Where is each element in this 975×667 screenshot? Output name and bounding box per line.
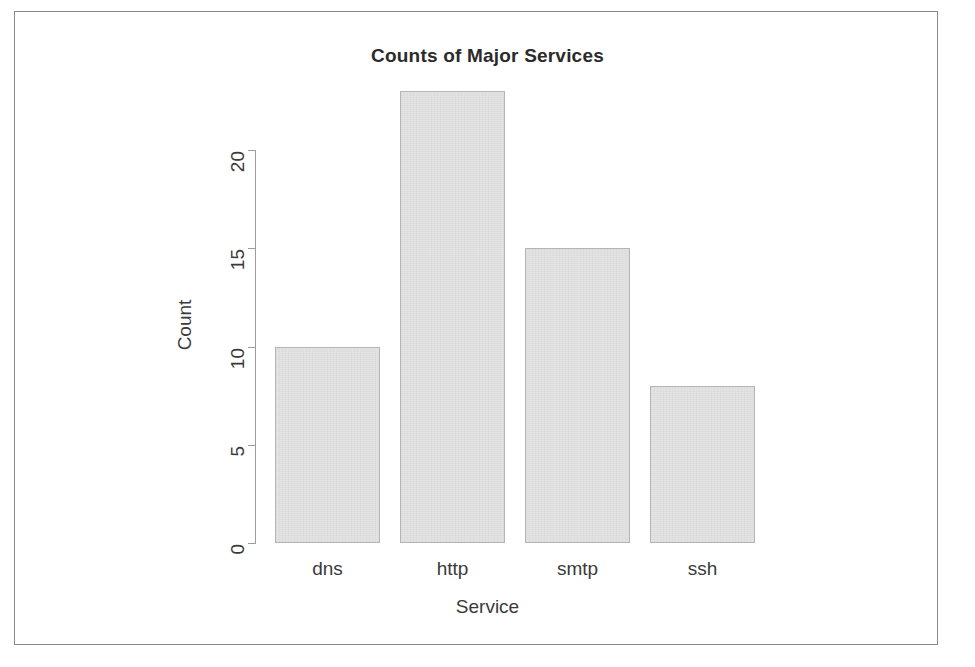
x-axis-tick-label-dns: dns (275, 558, 380, 580)
y-axis-tick-label: 10 (227, 348, 249, 408)
y-axis-tick-label: 15 (227, 249, 249, 309)
y-axis-title: Count (155, 295, 215, 355)
x-axis-tick-label-http: http (400, 558, 505, 580)
bar-smtp (525, 248, 630, 543)
y-axis-tick (248, 150, 256, 151)
y-axis-tick (248, 248, 256, 249)
y-axis-tick (248, 445, 256, 446)
plot-area: 05101520 Count dnshttpsmtpssh Service (0, 0, 975, 667)
y-axis-tick-label: 0 (227, 544, 249, 604)
bar-dns (275, 347, 380, 544)
y-axis-tick-label-wrap: 20 (178, 140, 238, 160)
y-axis-tick (248, 347, 256, 348)
x-axis-title: Service (0, 596, 975, 618)
bar-ssh (650, 386, 755, 543)
y-axis-tick-label-wrap: 5 (178, 435, 238, 455)
y-axis-tick-label-wrap: 0 (178, 533, 238, 553)
x-axis-tick-label-smtp: smtp (525, 558, 630, 580)
y-axis-tick-label: 5 (227, 446, 249, 506)
x-axis-tick-label-ssh: ssh (650, 558, 755, 580)
figure-canvas: Counts of Major Services 05101520 Count … (0, 0, 975, 667)
y-axis-tick-label: 20 (227, 151, 249, 211)
y-axis-tick-label-wrap: 15 (178, 238, 238, 258)
y-axis-tick (248, 543, 256, 544)
bar-http (400, 91, 505, 543)
